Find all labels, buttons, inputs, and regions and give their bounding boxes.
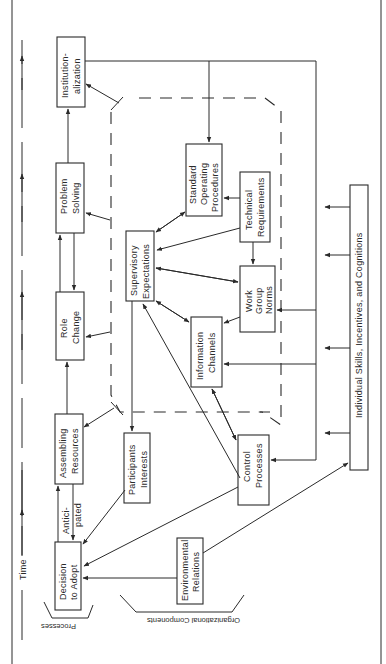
process-role-change: Role Change [56,292,84,360]
svg-text:Decision: Decision [58,563,68,600]
svg-text:Solving: Solving [71,182,81,214]
svg-text:Participants: Participants [127,444,137,495]
anticipated-label-2: pated [73,503,83,527]
svg-text:Environmental: Environmental [180,540,190,601]
process-institutionalization: Institution- alization [57,37,85,107]
component-individual-skills: Individual Skills, Incentives, and Cogni… [350,185,368,470]
svg-text:Resources: Resources [70,428,80,474]
svg-text:Standard: Standard [188,165,198,204]
svg-text:Problem: Problem [59,178,69,214]
processes-label: Processes [41,622,76,631]
svg-text:Role: Role [59,318,69,338]
component-standard-operating-procedures: Standard Operating Procedures [186,144,222,216]
svg-text:Supervisory: Supervisory [129,245,139,296]
time-label: Time [18,559,28,580]
svg-text:Operating: Operating [199,163,209,205]
svg-text:Channels: Channels [207,332,217,373]
time-axis: Time [15,40,29,640]
component-information-channels: Information Channels [191,317,222,387]
component-control-processes: Control Processes [238,435,269,505]
svg-text:alization: alization [72,58,82,94]
process-problem-solving: Problem Solving [56,163,84,233]
svg-text:Procedures: Procedures [210,163,220,212]
svg-text:Assembling: Assembling [58,428,68,478]
svg-text:Norms: Norms [264,286,274,314]
svg-text:Work: Work [244,290,254,312]
component-supervisory-expectations: Supervisory Expectations [126,231,154,301]
svg-text:to Adopt: to Adopt [69,564,79,600]
component-environmental-relations: Environmental Relations [177,538,203,604]
svg-text:Relations: Relations [191,552,201,592]
process-decision-to-adopt: Decision to Adopt [55,542,81,610]
process-assembling-resources: Assembling Resources [55,414,83,484]
svg-text:Individual Skills, Incentives,: Individual Skills, Incentives, and Cogni… [354,232,364,418]
component-participants-interests: Participants Interests [124,433,150,503]
svg-text:Requirements: Requirements [256,177,266,237]
svg-text:Group: Group [254,287,264,314]
svg-text:Information: Information [195,332,205,380]
svg-text:Control: Control [242,451,252,482]
component-technical-requirements: Technical Requirements [240,172,270,242]
svg-text:Interests: Interests [139,451,149,488]
anticipated-label: Antici- [61,507,71,534]
org-components-label: Organizational Components [147,616,240,625]
implementation-process-diagram: Time Decision to Adopt Assembling Resour… [0,0,386,664]
svg-text:Institution-: Institution- [60,53,70,98]
svg-text:Expectations: Expectations [141,244,151,299]
component-work-group-norms: Work Group Norms [240,266,275,332]
svg-text:Processes: Processes [254,443,264,488]
svg-text:Technical: Technical [244,190,254,230]
svg-text:Change: Change [71,311,81,344]
